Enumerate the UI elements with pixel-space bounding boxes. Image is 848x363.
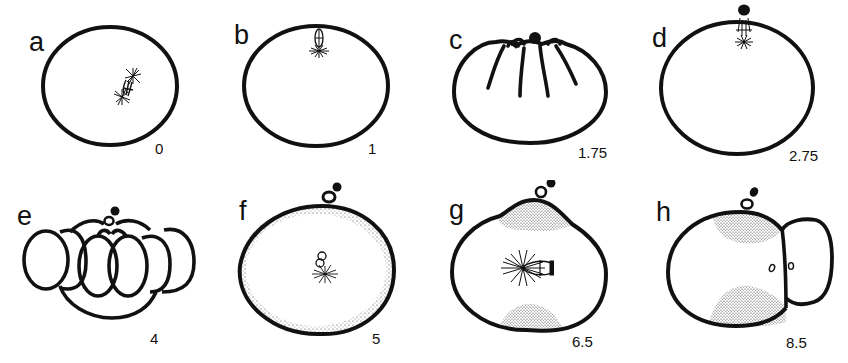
polar-body-icon bbox=[529, 32, 541, 44]
panel-f: f 5 bbox=[212, 180, 424, 361]
egg-stage-g-drawing bbox=[424, 180, 636, 363]
time-label-g: 6.5 bbox=[572, 334, 593, 349]
time-label-d: 2.75 bbox=[789, 148, 818, 163]
cortical-spindle-icon bbox=[309, 29, 329, 58]
daughter-nuclei-icon bbox=[768, 263, 793, 273]
polar-bodies-icon bbox=[323, 183, 342, 203]
panel-h: h 8.5 bbox=[636, 180, 848, 361]
panel-e: e 4 bbox=[0, 180, 212, 361]
cortical-furrows-icon bbox=[488, 40, 576, 97]
time-label-a: 0 bbox=[155, 141, 163, 156]
egg-stage-h-drawing bbox=[636, 180, 848, 363]
egg-stage-e-drawing bbox=[0, 180, 212, 363]
polar-body-icon bbox=[738, 5, 750, 16]
egg-stage-a-drawing bbox=[0, 0, 212, 181]
polar-bodies-icon bbox=[536, 180, 556, 197]
time-label-e: 4 bbox=[150, 331, 158, 346]
time-label-c: 1.75 bbox=[578, 145, 607, 160]
panel-a: a 0 bbox=[0, 0, 212, 181]
panel-c: c 1.75 bbox=[424, 0, 636, 181]
time-label-f: 5 bbox=[372, 331, 380, 346]
egg-stage-b-drawing bbox=[212, 0, 424, 181]
mitotic-spindle-aster-icon bbox=[501, 250, 554, 286]
time-label-h: 8.5 bbox=[786, 335, 807, 350]
polar-bodies-icon bbox=[742, 186, 760, 209]
panel-b: b 1 bbox=[212, 0, 424, 181]
panel-d: d 2.75 bbox=[636, 0, 848, 181]
time-label-b: 1 bbox=[368, 141, 376, 156]
panel-g: g 6.5 bbox=[424, 180, 636, 361]
meiotic-spindle-icon bbox=[114, 68, 141, 105]
egg-stage-f-drawing bbox=[212, 180, 424, 363]
